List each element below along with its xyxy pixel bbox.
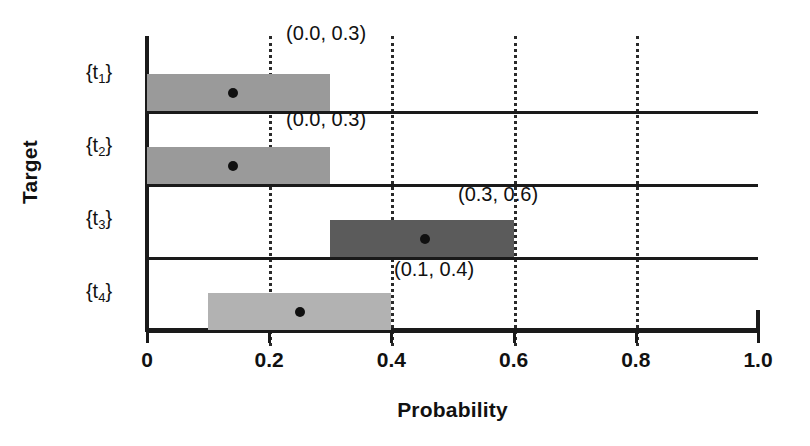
row-separator [147, 111, 758, 114]
probability-interval-chart: Target 00.20.40.60.81.0 {t1}{t2}{t3}{t4}… [0, 0, 810, 446]
tick-mark-1.0 [757, 330, 760, 343]
interval-bar-t2[interactable] [147, 147, 330, 184]
gridline-0.8 [636, 36, 639, 346]
x-axis-left-cap [145, 310, 149, 332]
x-tick-label-1.0: 1.0 [728, 348, 788, 372]
tick-mark-0 [146, 330, 149, 343]
x-tick-label-0: 0 [117, 348, 177, 372]
y-axis-label-t4: {t4} [62, 280, 136, 303]
bar-annotation-t1: (0.0, 0.3) [286, 22, 366, 45]
y-axis-label-t3: {t3} [62, 207, 136, 230]
tick-mark-0.6 [513, 330, 516, 343]
bar-annotation-t3: (0.3, 0.6) [458, 183, 538, 206]
bar-annotation-t2: (0.0, 0.3) [286, 108, 366, 131]
x-axis-right-cap [756, 310, 760, 332]
x-tick-label-0.2: 0.2 [239, 348, 299, 372]
y-axis-label-t2: {t2} [62, 134, 136, 157]
x-tick-label-0.8: 0.8 [606, 348, 666, 372]
tick-mark-0.2 [268, 330, 271, 343]
x-axis-title: Probability [147, 398, 758, 422]
x-tick-label-0.4: 0.4 [361, 348, 421, 372]
point-marker-t2[interactable] [228, 161, 238, 171]
y-axis-title: Target [18, 112, 42, 232]
row-separator [147, 330, 758, 333]
row-separator [147, 184, 758, 187]
point-marker-t3[interactable] [420, 234, 430, 244]
point-marker-t1[interactable] [228, 88, 238, 98]
x-tick-label-0.6: 0.6 [484, 348, 544, 372]
tick-mark-0.8 [635, 330, 638, 343]
interval-bar-t1[interactable] [147, 74, 330, 111]
y-axis-label-t1: {t1} [62, 61, 136, 84]
gridline-0.4 [391, 36, 394, 346]
point-marker-t4[interactable] [295, 307, 305, 317]
tick-mark-0.4 [390, 330, 393, 343]
bar-annotation-t4: (0.1, 0.4) [394, 258, 474, 281]
